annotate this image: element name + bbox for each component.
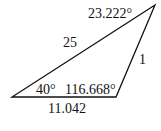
side-bottom-label: 11.042 xyxy=(48,102,86,116)
side-right-label: 1 xyxy=(139,53,146,67)
angle-bottom-right-label: 116.668° xyxy=(65,83,116,97)
angle-top-label: 23.222° xyxy=(88,7,132,21)
angle-bottom-left-label: 40° xyxy=(36,83,56,97)
side-long-label: 25 xyxy=(63,36,77,50)
